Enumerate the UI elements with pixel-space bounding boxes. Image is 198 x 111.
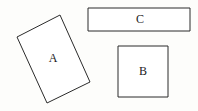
shape-a-label: A bbox=[49, 51, 58, 65]
shapes-diagram: A B C bbox=[0, 0, 198, 111]
shape-b-label: B bbox=[139, 64, 147, 78]
figure-canvas: A B C bbox=[0, 0, 198, 111]
shape-c-label: C bbox=[136, 12, 144, 26]
